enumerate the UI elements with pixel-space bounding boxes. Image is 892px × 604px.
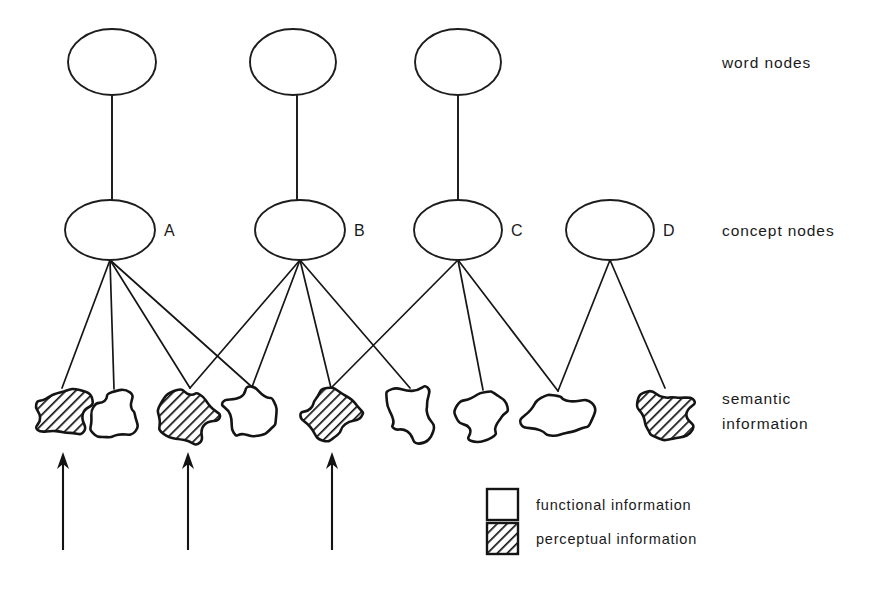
link-concept-node-d-to-blob-8 <box>558 260 610 391</box>
word-node-group <box>68 29 501 95</box>
concept-to-semantic-links <box>62 260 665 391</box>
input-arrow-2 <box>182 452 194 550</box>
link-concept-node-c-to-blob-7 <box>458 260 483 390</box>
semantic-information-label-line-1: semantic <box>722 390 791 407</box>
word-to-concept-stems <box>112 95 458 200</box>
semantic-information-label-line-2: information <box>722 415 809 432</box>
semantic-blob-group <box>36 386 695 444</box>
word-node-2[interactable] <box>250 29 336 95</box>
blob-4-functional <box>222 386 277 436</box>
legend-group: functional informationperceptual informa… <box>487 489 697 554</box>
legend-perceptual-swatch <box>487 523 518 554</box>
blob-2-functional <box>90 390 137 437</box>
link-concept-node-a-to-blob-3 <box>110 260 190 388</box>
link-concept-node-b-to-blob-4 <box>252 260 300 387</box>
concept-node-b[interactable] <box>255 200 345 260</box>
input-arrow-1 <box>57 452 69 550</box>
input-arrow-3 <box>326 452 338 550</box>
word-node-3[interactable] <box>415 29 501 95</box>
concept-node-b-label: B <box>354 222 365 239</box>
concept-node-d-label: D <box>663 222 675 239</box>
blob-9-perceptual <box>637 391 695 440</box>
legend-functional-swatch <box>487 489 518 520</box>
semantic-network-diagram: ABCD word nodesconcept nodessemanticinfo… <box>0 0 892 604</box>
concept-nodes-label: concept nodes <box>722 222 835 239</box>
blob-7-functional <box>454 391 507 441</box>
blob-6-functional <box>386 386 434 443</box>
legend-functional-label: functional information <box>536 497 691 513</box>
legend-perceptual-label: perceptual information <box>536 531 697 547</box>
link-concept-node-a-to-blob-1 <box>62 260 110 388</box>
concept-node-d[interactable] <box>566 200 654 260</box>
row-label-group: word nodesconcept nodessemanticinformati… <box>721 54 835 432</box>
word-node-1[interactable] <box>68 29 156 95</box>
link-concept-node-c-to-blob-8 <box>458 260 558 391</box>
link-concept-node-d-to-blob-9 <box>610 260 665 388</box>
concept-node-c[interactable] <box>414 200 502 260</box>
diagram-canvas: ABCD word nodesconcept nodessemanticinfo… <box>0 0 892 604</box>
link-concept-node-b-to-blob-3 <box>190 260 300 388</box>
concept-node-a-label: A <box>164 222 175 239</box>
blob-3-perceptual <box>158 389 220 444</box>
word-nodes-label: word nodes <box>721 54 811 71</box>
link-concept-node-a-to-blob-2 <box>110 260 114 389</box>
blob-5-perceptual <box>300 388 363 442</box>
blob-1-perceptual <box>36 389 93 434</box>
concept-node-c-label: C <box>511 222 523 239</box>
concept-node-group: ABCD <box>65 200 675 260</box>
concept-node-a[interactable] <box>65 200 155 260</box>
input-arrow-group <box>57 452 338 550</box>
link-concept-node-a-to-blob-4 <box>110 260 252 387</box>
blob-8-functional <box>520 395 595 436</box>
